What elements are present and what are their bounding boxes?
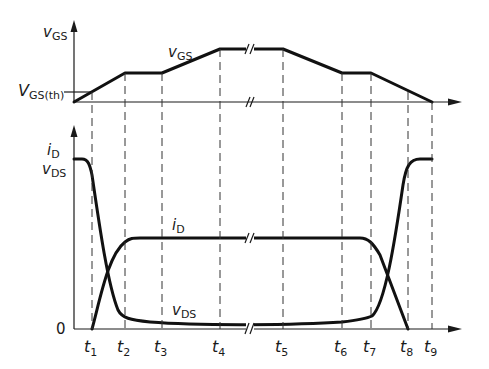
t9-label: t9	[424, 337, 437, 359]
time-markers	[92, 49, 432, 329]
vgs-x-axis-arrow-icon	[448, 99, 462, 106]
t4-label: t4	[212, 337, 225, 359]
vgs-curve-break-icon	[245, 44, 254, 54]
origin-zero-label: 0	[56, 320, 66, 338]
t2-label: t2	[117, 337, 130, 359]
lower-plot: iD vDS iD vDS 0	[42, 125, 462, 338]
id-curve-break-icon	[245, 233, 254, 243]
vgs-threshold-label: VGS(th)	[18, 81, 64, 102]
time-axis-arrow-icon	[448, 326, 462, 333]
switching-waveform-diagram: vGS VGS(th) vGS iD vDS iD vDS 0	[0, 0, 489, 369]
t7-label: t7	[363, 337, 376, 359]
id-curve	[92, 238, 408, 329]
t5-label: t5	[275, 337, 288, 359]
vgs-y-axis-arrow-icon	[71, 20, 78, 32]
vgs-curve	[74, 49, 432, 102]
t6-label: t6	[334, 337, 347, 359]
t1-label: t1	[84, 337, 97, 359]
vgs-curve-label: vGS	[168, 43, 192, 63]
time-tick-labels: t1 t2 t3 t4 t5 t6 t7 t8 t9	[84, 337, 437, 359]
id-axis-label: iD	[47, 141, 60, 161]
vds-axis-label: vDS	[42, 160, 66, 180]
t8-label: t8	[400, 337, 413, 359]
vgs-axis-label: vGS	[43, 23, 67, 43]
id-vds-y-axis-arrow-icon	[71, 125, 78, 137]
t3-label: t3	[154, 337, 167, 359]
upper-plot: vGS VGS(th) vGS	[18, 20, 462, 107]
vds-curve-label: vDS	[172, 301, 196, 321]
time-axis-break-icon	[245, 322, 254, 334]
id-curve-label: iD	[172, 216, 185, 236]
